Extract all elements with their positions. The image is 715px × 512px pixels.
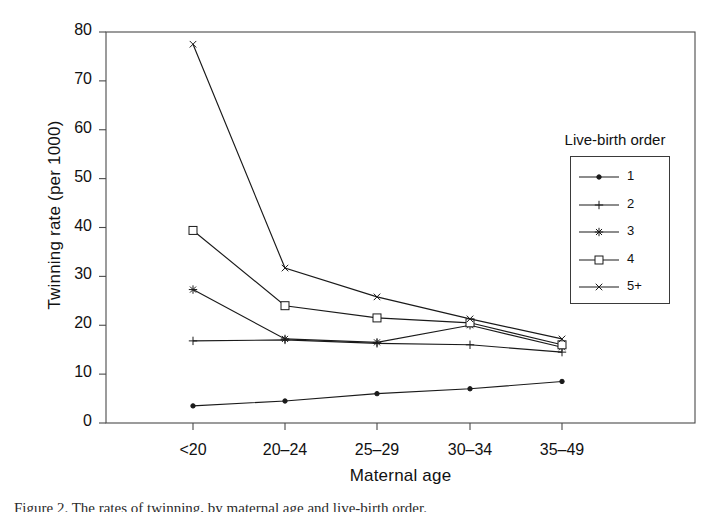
legend-label-1: 1 — [627, 168, 634, 183]
legend-label-2: 2 — [627, 196, 634, 211]
legend-item-2[interactable]: 2 — [571, 191, 669, 219]
legend-box: 12345+ — [570, 156, 670, 304]
legend-item-4[interactable]: 4 — [571, 246, 669, 274]
y-tick-50: 50 — [46, 168, 92, 186]
y-tick-0: 0 — [46, 412, 92, 430]
legend-label-3: 3 — [627, 223, 634, 238]
y-tick-70: 70 — [46, 70, 92, 88]
y-tick-60: 60 — [46, 119, 92, 137]
y-tick-80: 80 — [46, 21, 92, 39]
twinning-rate-figure: Twinning rate (per 1000) Maternal age 01… — [0, 0, 715, 512]
y-tick-30: 30 — [46, 265, 92, 283]
legend-label-4: 4 — [627, 251, 634, 266]
legend-title: Live-birth order — [520, 131, 710, 148]
x-axis-title: Maternal age — [106, 466, 695, 486]
y-tick-40: 40 — [46, 217, 92, 235]
legend-item-3[interactable]: 3 — [571, 218, 669, 246]
y-tick-10: 10 — [46, 363, 92, 381]
y-tick-20: 20 — [46, 314, 92, 332]
dot-marker-icon — [577, 163, 623, 191]
square-marker-icon — [577, 246, 623, 274]
series-1 — [191, 379, 564, 408]
plus-marker-icon — [577, 191, 623, 219]
figure-caption: Figure 2. The rates of twinning, by mate… — [14, 500, 704, 512]
series-5+ — [190, 41, 566, 342]
legend-item-5+[interactable]: 5+ — [571, 273, 669, 301]
asterisk-marker-icon — [577, 218, 623, 246]
x-tick-4: 35–49 — [507, 441, 617, 459]
cross-marker-icon — [577, 273, 623, 301]
legend-label-5+: 5+ — [627, 278, 642, 293]
legend-item-1[interactable]: 1 — [571, 163, 669, 191]
series-4 — [189, 226, 566, 348]
